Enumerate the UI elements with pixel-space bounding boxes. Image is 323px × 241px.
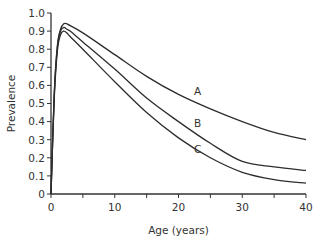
x-tick-label: 20: [172, 201, 185, 213]
x-tick-label: 0: [48, 201, 55, 213]
y-tick-label: 0.6: [28, 79, 45, 91]
x-tick-label: 40: [299, 201, 312, 213]
x-tick-label: 30: [236, 201, 249, 213]
curve-label-a: A: [194, 85, 202, 97]
curve-label-c: C: [194, 143, 201, 155]
y-tick-label: 0.9: [28, 25, 45, 37]
y-tick-label: 0.7: [28, 61, 45, 73]
y-tick-label: 0.4: [28, 115, 45, 127]
y-tick-label: 0.8: [28, 43, 45, 55]
curve-a: [51, 23, 306, 194]
x-tick-label: 10: [108, 201, 121, 213]
axes: 00.10.20.30.40.50.60.70.80.91.0010203040…: [5, 7, 313, 236]
curve-c: [51, 31, 306, 194]
y-tick-label: 0.2: [28, 152, 45, 164]
y-tick-label: 0.3: [28, 134, 45, 146]
curves: [51, 23, 306, 194]
curve-label-b: B: [194, 117, 201, 129]
labels: ABC: [194, 85, 202, 155]
y-tick-label: 0.1: [28, 170, 45, 182]
y-axis-title: Prevalence: [5, 75, 17, 133]
x-axis-title: Age (years): [148, 224, 209, 236]
y-tick-label: 0.5: [28, 97, 45, 109]
curve-b: [51, 27, 306, 194]
y-tick-label: 1.0: [28, 7, 45, 19]
prevalence-chart: 00.10.20.30.40.50.60.70.80.91.0010203040…: [0, 0, 323, 241]
y-tick-label: 0: [38, 188, 45, 200]
